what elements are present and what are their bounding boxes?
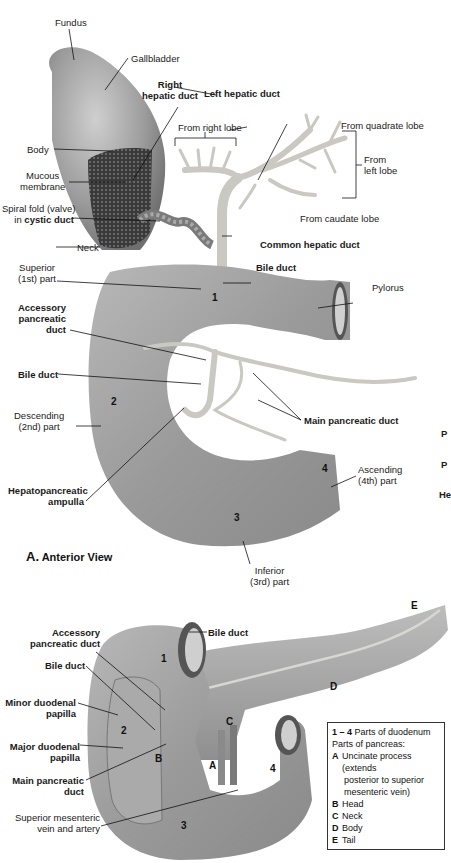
- legend-item-c: CNeck: [332, 810, 440, 822]
- view-title-a: A. Anterior View: [26, 549, 112, 564]
- pancreas-letter-b: B: [155, 753, 162, 764]
- label-from-caudate-lobe: From caudate lobe: [300, 213, 379, 224]
- legend-range-row: 1 – 4 Parts of duodenum: [332, 726, 440, 738]
- label-major-duodenal-papilla: Major duodenal papilla: [4, 741, 80, 763]
- pancreas-letter-a: A: [209, 760, 216, 771]
- label-bile-duct-b: Bile duct: [208, 627, 248, 638]
- label-from-left-lobe: From left lobe: [364, 154, 397, 176]
- duodenum-number-3-b: 3: [181, 820, 187, 831]
- label-fundus: Fundus: [55, 17, 87, 28]
- duodenum-number-4-b: 4: [270, 763, 276, 774]
- duodenum-number-4-a: 4: [322, 463, 328, 474]
- legend-box: 1 – 4 Parts of duodenum Parts of pancrea…: [327, 722, 445, 850]
- pancreas-letter-e: E: [411, 600, 418, 611]
- label-accessory-pancreatic-duct-b: Accessory pancreatic duct: [30, 627, 100, 649]
- label-mucous-membrane: Mucous membrane: [20, 170, 65, 192]
- cropped-text-2: P: [441, 459, 447, 470]
- label-spiral-fold: Spiral fold (valve) in cystic duct: [2, 203, 74, 225]
- label-bile-duct-top: Bile duct: [256, 262, 296, 273]
- legend-item-a: AUncinate process (extends: [332, 750, 440, 774]
- duodenum-number-2-a: 2: [111, 396, 117, 407]
- label-pylorus: Pylorus: [372, 282, 404, 293]
- label-bile-duct-mid: Bile duct: [18, 369, 58, 380]
- label-gallbladder: Gallbladder: [131, 53, 180, 64]
- label-body: Body: [27, 144, 49, 155]
- pancreas-letter-c: C: [226, 716, 233, 727]
- label-main-pancreatic-duct-b: Main pancreatic duct: [4, 775, 84, 797]
- cropped-text-1: P: [441, 428, 447, 439]
- label-hepatopancreatic-ampulla: Hepatopancreatic ampulla: [8, 485, 84, 507]
- label-from-quadrate-lobe: From quadrate lobe: [341, 120, 424, 131]
- label-from-right-lobe: From right lobe: [178, 122, 242, 133]
- label-accessory-pancreatic-duct-a: Accessory pancreatic duct: [10, 302, 66, 335]
- legend-item-b: BHead: [332, 798, 440, 810]
- label-left-hepatic-duct: Left hepatic duct: [204, 88, 280, 99]
- legend-item-e: ETail: [332, 834, 440, 846]
- duodenum-number-3-a: 3: [234, 512, 240, 523]
- label-main-pancreatic-duct-a: Main pancreatic duct: [304, 415, 399, 426]
- duodenum-number-1-a: 1: [212, 292, 218, 303]
- label-superior-part: Superior (1st) part: [18, 262, 56, 284]
- label-common-hepatic-duct: Common hepatic duct: [260, 239, 360, 250]
- label-superior-mesenteric-vessels: Superior mesenteric vein and artery: [2, 812, 100, 834]
- label-right-hepatic-duct: Right hepatic duct: [141, 79, 199, 101]
- label-neck: Neck: [77, 242, 99, 253]
- legend-pancreas-heading: Parts of pancreas:: [332, 738, 440, 750]
- duodenum-number-2-b: 2: [121, 725, 127, 736]
- legend-item-d: DBody: [332, 822, 440, 834]
- pancreas-letter-d: D: [330, 681, 337, 692]
- cropped-text-3: He: [439, 489, 451, 500]
- duodenum-number-1-b: 1: [161, 653, 167, 664]
- label-ascending-part: Ascending (4th) part: [358, 464, 402, 486]
- duodenum-a: [89, 265, 350, 547]
- label-descending-part: Descending (2nd) part: [14, 410, 64, 432]
- label-minor-duodenal-papilla: Minor duodenal papilla: [4, 697, 76, 719]
- label-bile-duct-b-left: Bile duct: [45, 660, 85, 671]
- label-inferior-part: Inferior (3rd) part: [250, 565, 289, 587]
